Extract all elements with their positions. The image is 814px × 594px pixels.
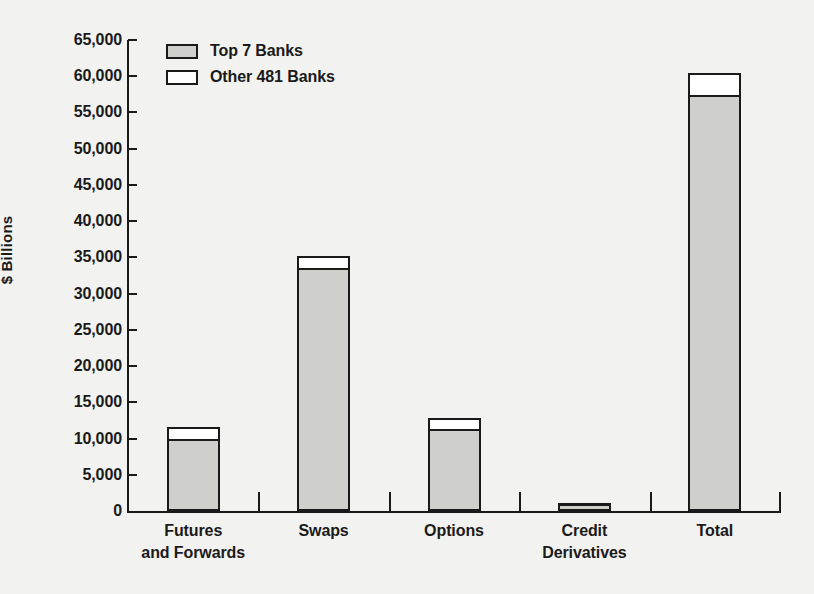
legend-label: Other 481 Banks: [210, 68, 335, 86]
y-tick-mark: [128, 474, 137, 476]
bar-segment-top-7-banks: [558, 504, 611, 511]
x-category-label-line: Derivatives: [499, 542, 669, 564]
y-tick-label: 55,000: [46, 104, 122, 120]
x-category-label: Total: [630, 520, 800, 542]
legend-swatch-top-7-banks: [166, 44, 198, 59]
y-tick-mark: [128, 293, 137, 295]
y-tick-mark: [128, 111, 137, 113]
y-tick-label: 40,000: [46, 213, 122, 229]
y-tick-label: 35,000: [46, 249, 122, 265]
y-tick-label: 50,000: [46, 141, 122, 157]
y-tick-label: 5,000: [46, 467, 122, 483]
y-tick-label: 0: [46, 503, 122, 519]
y-tick-mark: [128, 256, 137, 258]
y-tick-mark: [128, 75, 137, 77]
x-category-label-line: Total: [630, 520, 800, 542]
y-tick-label: 10,000: [46, 431, 122, 447]
bar-group: [167, 427, 220, 511]
y-tick-mark: [128, 329, 137, 331]
y-tick-label: 45,000: [46, 177, 122, 193]
y-tick-mark: [128, 365, 137, 367]
legend-label: Top 7 Banks: [210, 42, 303, 60]
y-tick-mark: [128, 184, 137, 186]
x-axis-right-tick: [779, 492, 781, 512]
bar-segment-top-7-banks: [688, 95, 741, 511]
x-tick-mark: [650, 492, 652, 512]
y-axis-line: [127, 40, 129, 513]
legend-swatch-other-481-banks: [166, 70, 198, 85]
bar-segment-top-7-banks: [167, 439, 220, 511]
x-axis-line: [127, 511, 781, 513]
y-axis-tick-marks: [128, 0, 140, 594]
y-tick-mark: [128, 438, 137, 440]
bar-group: [688, 73, 741, 511]
x-tick-mark: [519, 492, 521, 512]
x-tick-mark: [389, 492, 391, 512]
y-tick-label: 30,000: [46, 286, 122, 302]
y-tick-label: 15,000: [46, 394, 122, 410]
y-tick-mark: [128, 401, 137, 403]
bar-group: [558, 503, 611, 511]
y-tick-label: 60,000: [46, 68, 122, 84]
x-tick-mark: [258, 492, 260, 512]
bar-group: [297, 256, 350, 511]
legend-item: Other 481 Banks: [166, 64, 335, 90]
bar-segment-top-7-banks: [428, 429, 481, 511]
x-category-label-line: and Forwards: [108, 542, 278, 564]
y-axis-title: $ Billions: [0, 180, 15, 320]
bar-segment-other-481-banks: [688, 73, 741, 97]
stacked-bar-chart: $ Billions 65,00060,00055,00050,00045,00…: [0, 0, 814, 594]
bar-segment-top-7-banks: [297, 268, 350, 511]
y-axis-tick-labels: 65,00060,00055,00050,00045,00040,00035,0…: [36, 0, 122, 594]
bar-group: [428, 418, 481, 511]
y-tick-mark: [128, 39, 137, 41]
y-tick-mark: [128, 220, 137, 222]
y-tick-label: 20,000: [46, 358, 122, 374]
legend-item: Top 7 Banks: [166, 38, 335, 64]
y-tick-label: 65,000: [46, 32, 122, 48]
chart-legend: Top 7 BanksOther 481 Banks: [166, 38, 335, 90]
y-tick-mark: [128, 148, 137, 150]
y-tick-label: 25,000: [46, 322, 122, 338]
